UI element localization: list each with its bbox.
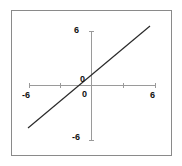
x-tick-minus6 — [29, 83, 30, 88]
origin-label-x: 0 — [82, 90, 87, 99]
y-axis-label-bottom: -6 — [72, 133, 80, 142]
y-tick-plus6 — [89, 31, 94, 32]
x-tick-plus6 — [155, 83, 156, 88]
x-tick-plus3 — [123, 83, 124, 88]
x-tick-minus3 — [60, 83, 61, 88]
origin-label-y: 0 — [80, 75, 85, 84]
x-axis-label-left: -6 — [22, 91, 30, 100]
chart-screenshot: 6 -6 -6 6 0 0 — [0, 0, 182, 166]
y-tick-minus6 — [89, 140, 94, 141]
y-axis-line — [91, 31, 92, 141]
y-axis-label-top: 6 — [74, 26, 79, 35]
x-axis-label-right: 6 — [150, 91, 155, 100]
x-axis-line — [29, 85, 156, 86]
plot-frame — [11, 10, 172, 156]
